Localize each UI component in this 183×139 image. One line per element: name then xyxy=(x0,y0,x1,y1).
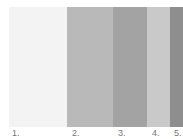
band-label-4: 4. xyxy=(152,128,160,138)
band-label-2: 2. xyxy=(72,128,80,138)
band-5 xyxy=(170,7,183,127)
band-4 xyxy=(147,7,170,127)
band-1 xyxy=(9,7,67,127)
band-label-1: 1. xyxy=(12,128,20,138)
band-label-3: 3. xyxy=(118,128,126,138)
band-3 xyxy=(113,7,147,127)
band-label-5: 5. xyxy=(174,128,182,138)
band-2 xyxy=(67,7,113,127)
